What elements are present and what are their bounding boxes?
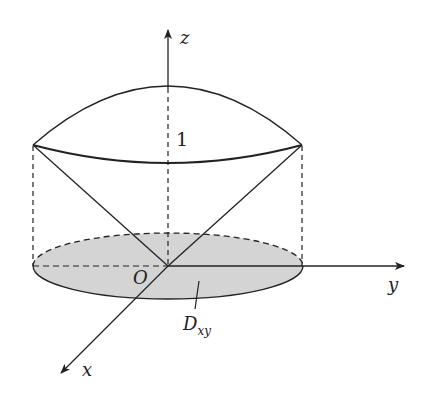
- origin-label: O: [133, 267, 148, 288]
- x-axis-label: x: [82, 359, 92, 380]
- region-label: Dxy: [182, 313, 211, 338]
- z-axis-label: z: [179, 27, 190, 48]
- solid-diagram: z y x O 1 Dxy: [0, 0, 427, 395]
- region-label-main: D: [182, 313, 198, 334]
- y-axis-label: y: [387, 274, 399, 295]
- region-label-sub: xy: [197, 324, 211, 338]
- height-label: 1: [176, 128, 188, 150]
- diagram-canvas: z y x O 1 Dxy: [0, 0, 427, 395]
